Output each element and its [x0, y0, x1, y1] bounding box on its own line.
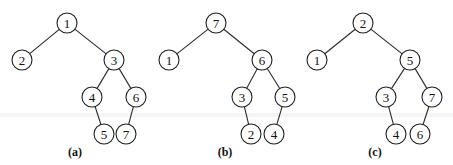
tree-node: 4 — [82, 87, 102, 107]
tree-node: 3 — [376, 87, 396, 107]
node-label: 1 — [314, 53, 321, 68]
tree-node: 6 — [126, 87, 146, 107]
tree-caption: (a) — [68, 145, 82, 159]
tree-a: 1234657(a) — [12, 13, 146, 159]
node-label: 3 — [239, 90, 246, 105]
node-label: 7 — [213, 16, 220, 31]
node-label: 5 — [407, 53, 414, 68]
edge-1-3 — [75, 29, 106, 54]
tree-node: 7 — [422, 87, 442, 107]
tree-node: 7 — [116, 124, 136, 144]
node-label: 3 — [111, 53, 118, 68]
tree-node: 5 — [94, 124, 114, 144]
node-label: 4 — [271, 127, 278, 142]
tree-node: 4 — [386, 124, 406, 144]
node-label: 4 — [89, 90, 96, 105]
tree-c: 2153746(c) — [307, 13, 442, 159]
tree-node: 2 — [241, 124, 261, 144]
edge-5-3 — [391, 68, 404, 88]
node-label: 7 — [123, 127, 130, 142]
node-label: 6 — [259, 53, 266, 68]
edge-7-6 — [224, 29, 254, 53]
tree-node: 4 — [264, 124, 284, 144]
tree-b: 7163524(b) — [159, 13, 295, 159]
scan-band — [0, 113, 453, 117]
node-label: 1 — [166, 53, 173, 68]
tree-caption: (b) — [218, 145, 233, 159]
tree-caption: (c) — [368, 145, 381, 159]
node-label: 1 — [64, 16, 71, 31]
edge-1-2 — [30, 29, 60, 53]
tree-node: 7 — [206, 13, 226, 33]
tree-node: 1 — [159, 50, 179, 70]
edge-2-1 — [325, 29, 355, 53]
tree-node: 5 — [275, 87, 295, 107]
node-label: 2 — [248, 127, 255, 142]
node-label: 3 — [383, 90, 390, 105]
tree-node: 5 — [400, 50, 420, 70]
node-label: 2 — [19, 53, 26, 68]
edge-7-1 — [177, 29, 208, 54]
tree-node: 3 — [232, 87, 252, 107]
node-label: 4 — [393, 127, 400, 142]
node-label: 5 — [101, 127, 108, 142]
tree-node: 1 — [57, 13, 77, 33]
tree-node: 2 — [353, 13, 373, 33]
edge-2-5 — [371, 29, 402, 54]
tree-node: 1 — [307, 50, 327, 70]
node-label: 6 — [417, 127, 424, 142]
tree-node: 6 — [252, 50, 272, 70]
tree-node: 3 — [104, 50, 124, 70]
edge-6-3 — [247, 69, 257, 88]
node-label: 6 — [133, 90, 140, 105]
tree-node: 6 — [410, 124, 430, 144]
edge-3-4 — [97, 69, 109, 89]
edge-6-5 — [267, 68, 279, 88]
tree-node: 2 — [12, 50, 32, 70]
node-label: 2 — [360, 16, 367, 31]
edge-5-7 — [415, 69, 427, 89]
binary-trees-figure: 1234657(a) 7163524(b) 2153746(c) — [0, 0, 453, 165]
edge-3-6 — [119, 69, 131, 89]
node-label: 5 — [282, 90, 289, 105]
node-label: 7 — [429, 90, 436, 105]
